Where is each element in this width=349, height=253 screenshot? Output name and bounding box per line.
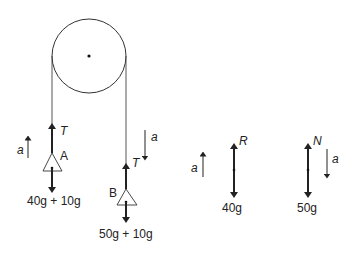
- weight-label-a: 40g + 10g: [27, 194, 81, 208]
- mass-b: a T B 50g + 10g: [99, 130, 158, 241]
- pulley: [52, 19, 126, 93]
- accel-label-a: a: [17, 143, 24, 157]
- accel-label-b: a: [151, 130, 158, 144]
- weight-label-b: 50g + 10g: [99, 227, 153, 241]
- normal-label-n: N: [313, 134, 322, 148]
- pulley-axle: [87, 54, 90, 57]
- mass-a: a T A 40g + 10g: [17, 124, 81, 208]
- mass-a-label: A: [60, 149, 68, 163]
- mass-b-label: B: [109, 186, 117, 200]
- free-body-diagram-1: a R 40g: [191, 134, 248, 215]
- accel-label-fbd2: a: [332, 152, 339, 166]
- weight-label-40g: 40g: [222, 201, 242, 215]
- tension-label-a: T: [60, 124, 69, 138]
- accel-label-fbd1: a: [191, 161, 198, 175]
- tension-label-b: T: [132, 156, 141, 170]
- free-body-diagram-2: a N 50g: [297, 134, 339, 215]
- reaction-label-r: R: [239, 134, 248, 148]
- pulley-diagram: a T A 40g + 10g a T B 50g + 10g a R 40g …: [0, 0, 349, 253]
- weight-label-50g: 50g: [297, 201, 317, 215]
